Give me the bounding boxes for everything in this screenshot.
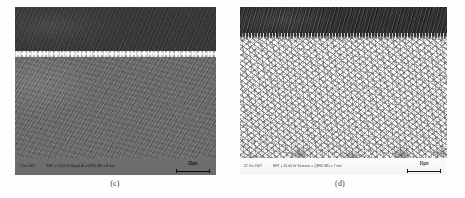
scale-bar-rule-c <box>176 169 210 173</box>
scale-bar-tick-left-d <box>407 169 408 173</box>
sem-info-bar-c: 7 Jun 2007 EHT = 15.00 kV Signal A = QBS… <box>15 158 216 175</box>
scale-bar-rule-d <box>407 169 441 173</box>
scale-bar-label-d: 10µm <box>419 161 428 168</box>
scale-bar-tick-left-c <box>176 169 177 173</box>
subfigure-caption-c: (c) <box>95 179 135 188</box>
sem-parameters-c: EHT = 15.00 kV Signal A = QBSD WD = 8 mm <box>36 163 115 170</box>
sem-date-c: 7 Jun 2007 <box>15 163 36 170</box>
micrograph-panel-c: 7 Jun 2007 EHT = 15.00 kV Signal A = QBS… <box>15 7 216 175</box>
scale-bar-tick-right-d <box>440 169 441 173</box>
panel-c-upper-layer <box>15 7 216 53</box>
panel-d-dark-band <box>240 7 447 36</box>
scale-bar-d: 10µm <box>407 163 441 174</box>
sem-info-bar-d: 22 Oct 2007 EHT = 15.00 kV Detector = QB… <box>240 158 447 175</box>
panel-d-band-edge <box>240 33 447 40</box>
sem-parameters-d: EHT = 15.00 kV Detector = QBSD WD = 7 mm <box>262 163 342 170</box>
sem-date-d: 22 Oct 2007 <box>240 163 262 170</box>
micrograph-image-c <box>15 7 216 175</box>
scale-bar-c: 20µm <box>176 163 210 174</box>
subfigure-caption-d: (d) <box>320 179 360 188</box>
micrograph-image-d <box>240 7 447 175</box>
figure-root: 7 Jun 2007 EHT = 15.00 kV Signal A = QBS… <box>0 0 465 198</box>
scale-bar-label-c: 20µm <box>188 161 197 168</box>
micrograph-panel-d: 22 Oct 2007 EHT = 15.00 kV Detector = QB… <box>240 7 447 175</box>
scale-bar-tick-right-c <box>209 169 210 173</box>
